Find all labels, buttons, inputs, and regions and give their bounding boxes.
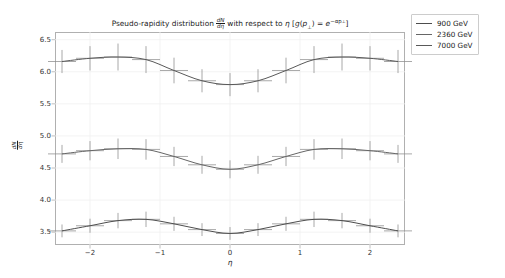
y-tick-label: 5.5 <box>40 100 51 108</box>
chart-screenshot: Pseudo-rapidity distribution dN dη with … <box>0 0 505 278</box>
tick-marks-layer <box>52 40 371 249</box>
x-tick-label: −2 <box>85 249 95 257</box>
y-tick-label: 4.5 <box>40 164 51 172</box>
x-tick-label: 2 <box>368 249 372 257</box>
legend-color-swatch <box>416 45 432 46</box>
y-tick-label: 6.0 <box>40 68 51 76</box>
legend-rows: 900 GeV2360 GeV7000 GeV <box>416 18 473 51</box>
legend-color-swatch <box>416 23 432 24</box>
x-tick-label: 1 <box>298 249 302 257</box>
legend-item-label: 900 GeV <box>437 19 468 28</box>
x-tick-label: −1 <box>155 249 165 257</box>
legend-color-swatch <box>416 34 432 35</box>
legend-item[interactable]: 2360 GeV <box>416 29 473 40</box>
legend-item-label: 2360 GeV <box>437 30 473 39</box>
legend-item[interactable]: 900 GeV <box>416 18 473 29</box>
legend-item-label: 7000 GeV <box>437 41 473 50</box>
y-tick-label: 5.0 <box>40 132 51 140</box>
x-tick-label: 0 <box>228 249 232 257</box>
matplotlib-figure: Pseudo-rapidity distribution dN dη with … <box>0 0 505 278</box>
y-tick-label: 3.5 <box>40 228 51 236</box>
y-tick-label: 4.0 <box>40 196 51 204</box>
grid-layer <box>55 32 405 245</box>
y-tick-label: 6.5 <box>40 36 51 44</box>
legend[interactable]: 900 GeV2360 GeV7000 GeV <box>411 14 479 55</box>
legend-item[interactable]: 7000 GeV <box>416 40 473 51</box>
